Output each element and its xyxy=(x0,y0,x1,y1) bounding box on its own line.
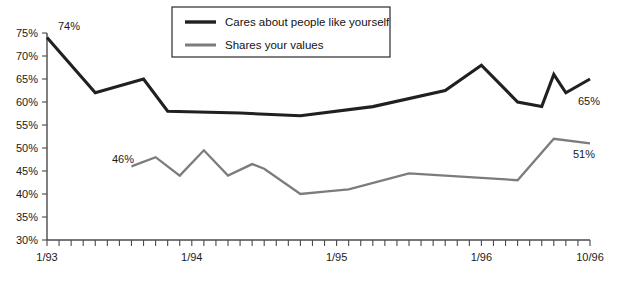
annotation-dark-end: 65% xyxy=(578,95,600,107)
line-chart-svg: 75%70%65%60%55%50%45%40%35%30% 1/931/941… xyxy=(0,0,617,281)
x-tick-label: 1/93 xyxy=(36,251,57,263)
annotation-dark-start: 74% xyxy=(58,20,80,32)
y-tick-label: 45% xyxy=(16,165,38,177)
y-axis-tick-labels: 75%70%65%60%55%50%45%40%35%30% xyxy=(16,27,38,246)
legend-label-shares-your-values: Shares your values xyxy=(225,39,324,51)
chart-container: 75%70%65%60%55%50%45%40%35%30% 1/931/941… xyxy=(0,0,617,281)
y-tick-label: 30% xyxy=(16,234,38,246)
y-axis-ticks xyxy=(42,33,47,240)
x-tick-label: 1/94 xyxy=(181,251,202,263)
y-tick-label: 50% xyxy=(16,142,38,154)
series-lines xyxy=(47,38,590,194)
annotation-gray-start: 46% xyxy=(112,153,134,165)
y-tick-label: 65% xyxy=(16,73,38,85)
x-axis-minor-ticks xyxy=(47,240,590,246)
y-tick-label: 55% xyxy=(16,119,38,131)
y-tick-label: 35% xyxy=(16,211,38,223)
legend: Cares about people like yourself Shares … xyxy=(172,7,390,57)
y-tick-label: 75% xyxy=(16,27,38,39)
x-tick-label: 10/96 xyxy=(576,251,604,263)
y-tick-label: 70% xyxy=(16,50,38,62)
y-tick-label: 60% xyxy=(16,96,38,108)
x-tick-label: 1/96 xyxy=(471,251,492,263)
legend-label-cares-about-people: Cares about people like yourself xyxy=(225,16,390,28)
y-tick-label: 40% xyxy=(16,188,38,200)
x-axis-tick-labels: 1/931/941/951/9610/96 xyxy=(36,251,603,263)
x-tick-label: 1/95 xyxy=(326,251,347,263)
annotation-gray-end: 51% xyxy=(573,148,595,160)
x-axis: 1/931/941/951/9610/96 xyxy=(36,240,603,263)
y-axis: 75%70%65%60%55%50%45%40%35%30% xyxy=(16,27,47,246)
series-line-shares-your-values xyxy=(131,139,590,194)
